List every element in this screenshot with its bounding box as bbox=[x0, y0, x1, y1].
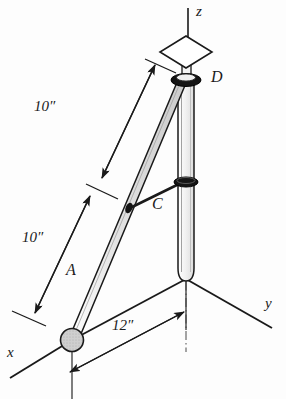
collar-d bbox=[171, 74, 201, 87]
dimension-label-base: 12″ bbox=[112, 318, 133, 333]
figure-canvas: z y x D C A 10″ 10″ 12″ bbox=[0, 0, 286, 399]
point-label-d: D bbox=[211, 69, 223, 85]
dimension-lower bbox=[12, 196, 90, 326]
dimension-label-lower: 10″ bbox=[22, 230, 43, 245]
thrust-bearing-symbol bbox=[160, 36, 212, 68]
collar-c bbox=[174, 177, 198, 187]
axis-label-y: y bbox=[265, 296, 272, 311]
diagram-svg bbox=[0, 0, 286, 399]
point-label-c: C bbox=[152, 196, 163, 212]
axis-label-z: z bbox=[196, 4, 202, 19]
ball-joint-a bbox=[61, 329, 84, 352]
point-label-a: A bbox=[66, 262, 76, 278]
axis-y bbox=[186, 279, 272, 328]
axis-label-x: x bbox=[7, 345, 14, 360]
dimension-label-upper: 10″ bbox=[34, 99, 55, 114]
